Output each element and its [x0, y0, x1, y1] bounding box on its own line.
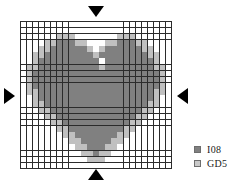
grid-cell	[33, 157, 39, 163]
grid-cell	[136, 77, 142, 83]
grid-cell	[166, 77, 172, 83]
grid-cell	[148, 132, 154, 138]
grid-cell	[27, 126, 33, 132]
grid-cell	[21, 163, 27, 169]
grid-cell	[105, 89, 111, 95]
grid-cell	[69, 83, 75, 89]
grid-cell	[75, 144, 81, 150]
grid-cell	[75, 46, 81, 52]
grid-cell	[166, 138, 172, 144]
grid-cell	[99, 120, 105, 126]
grid-cell	[111, 89, 117, 95]
grid-cell	[130, 22, 136, 28]
grid-cell	[111, 101, 117, 107]
grid-cell	[75, 71, 81, 77]
grid-cell	[160, 28, 166, 34]
grid-cell	[142, 34, 148, 40]
grid-cell	[27, 144, 33, 150]
grid-cell	[81, 52, 87, 58]
grid-cell	[93, 95, 99, 101]
grid-cell	[81, 58, 87, 64]
grid-cell	[57, 151, 63, 157]
grid-cell	[142, 163, 148, 169]
grid-cell	[63, 108, 69, 114]
grid-cell	[63, 126, 69, 132]
left-marker-icon	[4, 88, 15, 104]
grid-cell	[166, 28, 172, 34]
grid-cell	[21, 58, 27, 64]
grid-cell	[39, 46, 45, 52]
grid-cell	[166, 34, 172, 40]
grid-cell	[75, 58, 81, 64]
grid-cell	[124, 71, 130, 77]
grid-cell	[69, 58, 75, 64]
grid-cell	[69, 101, 75, 107]
grid-cell	[45, 144, 51, 150]
grid-cell	[51, 157, 57, 163]
grid-cell	[148, 28, 154, 34]
grid-cell	[105, 114, 111, 120]
grid-cell	[75, 22, 81, 28]
grid-cell	[111, 144, 117, 150]
grid-cell	[124, 120, 130, 126]
legend: I08 GD5	[194, 143, 237, 171]
grid-cell	[99, 132, 105, 138]
grid-cell	[166, 114, 172, 120]
grid-cell	[124, 144, 130, 150]
grid-cell	[75, 89, 81, 95]
grid-cell	[51, 65, 57, 71]
grid-cell	[39, 132, 45, 138]
grid-cell	[69, 46, 75, 52]
grid-cell	[81, 163, 87, 169]
grid-cell	[75, 77, 81, 83]
grid-cell	[166, 163, 172, 169]
grid-cell	[63, 157, 69, 163]
grid-cell	[33, 65, 39, 71]
grid-cell	[166, 71, 172, 77]
grid-cell	[111, 95, 117, 101]
grid-cell	[136, 46, 142, 52]
grid-cell	[57, 157, 63, 163]
grid-cell	[166, 144, 172, 150]
grid-cell	[117, 34, 123, 40]
grid-cell	[142, 108, 148, 114]
grid-cell	[39, 151, 45, 157]
legend-item: GD5	[194, 157, 237, 170]
grid-cell	[51, 52, 57, 58]
grid-cell	[27, 132, 33, 138]
grid-cell	[75, 65, 81, 71]
grid-cell	[63, 144, 69, 150]
right-marker-icon	[177, 88, 188, 104]
grid-cell	[21, 40, 27, 46]
grid-cell	[124, 28, 130, 34]
grid-cell	[75, 40, 81, 46]
grid-cell	[136, 138, 142, 144]
grid-cell	[166, 89, 172, 95]
grid-cell	[33, 132, 39, 138]
grid-cell	[51, 151, 57, 157]
grid-cell	[75, 83, 81, 89]
grid-cell	[93, 71, 99, 77]
grid-cell	[45, 40, 51, 46]
grid-cell	[39, 52, 45, 58]
grid-cell	[142, 157, 148, 163]
grid-cell	[21, 108, 27, 114]
grid-cell	[45, 101, 51, 107]
grid-cell	[130, 157, 136, 163]
grid-cell	[51, 77, 57, 83]
grid-cell	[39, 120, 45, 126]
grid-cell	[105, 101, 111, 107]
grid-cell	[130, 40, 136, 46]
grid-cell	[99, 151, 105, 157]
grid-cell	[33, 77, 39, 83]
grid-cell	[87, 58, 93, 64]
grid-cell	[51, 95, 57, 101]
grid-cell	[130, 144, 136, 150]
grid-container	[20, 21, 172, 169]
grid-cell	[93, 22, 99, 28]
grid-cell	[63, 83, 69, 89]
grid-cell	[148, 52, 154, 58]
grid-cell	[124, 22, 130, 28]
grid-cell	[154, 114, 160, 120]
grid-cell	[160, 126, 166, 132]
